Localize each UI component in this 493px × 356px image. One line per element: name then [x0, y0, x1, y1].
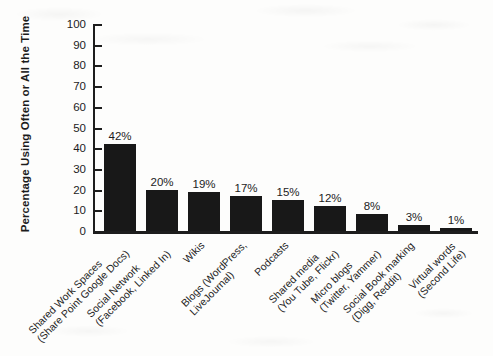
x-axis-label: Virtual words(Second Life) — [406, 239, 467, 300]
bar-value-label: 17% — [234, 182, 257, 194]
y-tick-label: 40 — [73, 142, 86, 154]
plot-area: 0102030405060708090100 42%20%19%17%15%12… — [93, 24, 478, 232]
y-tick-label: 70 — [73, 80, 86, 92]
y-tick-mark — [95, 65, 102, 67]
y-tick-label: 20 — [73, 184, 86, 196]
x-axis-label-line1: Micro blogs — [308, 259, 354, 305]
bar: 17% — [230, 196, 262, 231]
bar-value-label: 1% — [448, 214, 465, 226]
x-axis-label-line2: LiveJournal) — [187, 247, 257, 317]
y-tick-mark — [95, 190, 102, 192]
y-tick-label: 100 — [67, 18, 86, 30]
y-tick-label: 10 — [73, 204, 86, 216]
x-axis-label: Wikis — [180, 239, 206, 265]
bar: 12% — [314, 206, 346, 231]
bar-value-label: 15% — [276, 186, 299, 198]
x-axis-line — [93, 231, 478, 234]
x-axis-label-line1: Shared media — [266, 251, 321, 306]
y-tick-mark — [95, 169, 102, 171]
y-tick-mark — [95, 45, 102, 47]
x-axis-label: Social Network(Facebook, Linked In) — [84, 239, 173, 328]
bar-value-label: 20% — [150, 176, 173, 188]
y-tick-mark — [95, 24, 102, 26]
y-tick-label: 60 — [73, 101, 86, 113]
x-axis-label: Shared Work Spaces(Share Point Google Do… — [26, 239, 132, 345]
y-tick-mark — [95, 107, 102, 109]
x-axis-label-line1: Virtual words — [406, 240, 457, 291]
y-axis-title: Percentage Using Often or All the Time — [14, 8, 36, 240]
y-tick-label: 30 — [73, 163, 86, 175]
x-axis-label-line1: Social Book marking — [340, 239, 416, 315]
y-tick-label: 90 — [73, 39, 86, 51]
y-tick-mark — [95, 210, 102, 212]
y-tick-label: 0 — [80, 225, 86, 237]
x-axis-label-line2: (Second Life) — [415, 247, 468, 300]
x-axis-label-line1: Blogs (WordPress, — [178, 239, 248, 309]
x-axis-label-line2: (Digg, Reddit) — [349, 248, 425, 324]
y-tick-mark — [95, 86, 102, 88]
bar-chart-figure: Percentage Using Often or All the Time 0… — [0, 0, 493, 356]
x-axis-label-line1: Shared Work Spaces — [26, 257, 105, 336]
bar: 42% — [104, 144, 136, 231]
y-tick-mark — [95, 231, 102, 233]
bar: 1% — [440, 228, 472, 231]
x-axis-label: Social Book marking(Digg, Reddit) — [340, 239, 425, 324]
x-axis-label: Blogs (WordPress,LiveJournal) — [178, 239, 257, 318]
x-axis-label-line2: (Twitter, Yammer) — [317, 248, 383, 314]
x-axis-label-line2: (Facebook, Linked In) — [92, 248, 172, 328]
bar: 15% — [272, 200, 304, 231]
x-axis-label: Micro blogs(Twitter, Yammer) — [308, 239, 383, 314]
bar-value-label: 3% — [406, 211, 423, 223]
bar: 8% — [356, 214, 388, 231]
x-axis-label-line1: Wikis — [180, 239, 206, 265]
y-tick-label: 80 — [73, 59, 86, 71]
y-tick-label: 50 — [73, 122, 86, 134]
bar: 3% — [398, 225, 430, 231]
y-tick-mark — [95, 128, 102, 130]
bar: 20% — [146, 190, 178, 231]
bar-value-label: 8% — [364, 200, 381, 212]
x-axis-label-line1: Social Network — [84, 262, 142, 320]
bar-value-label: 42% — [108, 130, 131, 142]
x-axis-label: Podcasts — [252, 239, 291, 278]
bar: 19% — [188, 192, 220, 231]
x-axis-label: Shared media(You Tube, Flickr) — [266, 239, 341, 314]
x-axis-label-line2: (You Tube, Flickr) — [275, 248, 341, 314]
x-axis-label-line2: (Share Point Google Docs) — [34, 247, 131, 344]
x-axis-label-line1: Podcasts — [252, 239, 291, 278]
bar-value-label: 19% — [192, 178, 215, 190]
y-tick-mark — [95, 148, 102, 150]
bar-value-label: 12% — [318, 192, 341, 204]
